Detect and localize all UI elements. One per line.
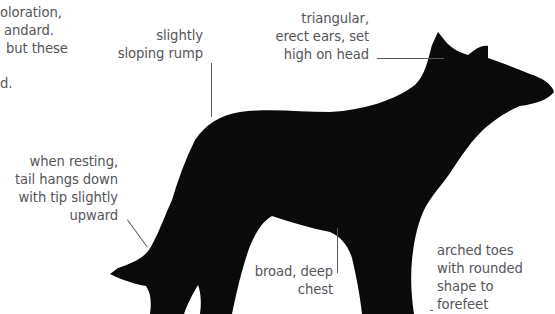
annotation-tail-line-3: with tip slightly: [19, 189, 118, 207]
annotation-chest-line-1: broad, deep: [255, 263, 333, 281]
annotation-toes-line-4: forefeet: [437, 296, 488, 314]
leader-line-toes: [430, 310, 433, 311]
annotation-ears-line-3: high on head: [284, 46, 369, 64]
annotation-tail-line-4: upward: [69, 207, 118, 225]
annotation-toes-line-2: with rounded: [437, 260, 523, 278]
intro-text-line-2: andard.: [4, 22, 54, 40]
annotation-toes-line-1: arched toes: [437, 242, 514, 260]
annotation-rump-line-1: slightly: [156, 27, 203, 45]
intro-text-line-1: oloration,: [0, 4, 62, 22]
intro-text-line-5: d.: [0, 75, 12, 93]
annotation-ears-line-2: erect ears, set: [276, 28, 370, 46]
annotation-tail-line-2: tail hangs down: [15, 171, 118, 189]
annotation-tail-line-1: when resting,: [30, 153, 118, 171]
leader-line-chest: [337, 228, 338, 273]
annotation-chest-line-2: chest: [298, 281, 333, 299]
leader-line-ears: [377, 58, 444, 59]
intro-text-line-3: but these: [6, 40, 68, 58]
annotation-rump-line-2: sloping rump: [118, 45, 203, 63]
annotation-toes-line-3: shape to: [437, 278, 493, 296]
leader-line-rump: [211, 63, 212, 117]
annotation-ears-line-1: triangular,: [301, 10, 369, 28]
